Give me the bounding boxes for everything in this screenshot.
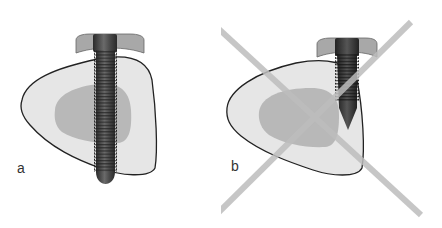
panel-b: b	[221, 0, 442, 228]
bone-cross-section-correct-illustration	[0, 0, 221, 228]
panel-a: a	[0, 0, 221, 228]
panel-label-a: a	[17, 160, 25, 176]
panel-label-b: b	[231, 158, 239, 174]
bone-cross-section-incorrect-illustration	[221, 0, 442, 228]
screw-head	[93, 34, 117, 52]
screw-head	[335, 38, 359, 56]
